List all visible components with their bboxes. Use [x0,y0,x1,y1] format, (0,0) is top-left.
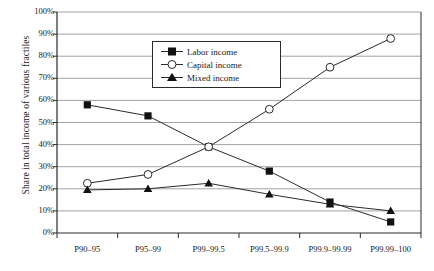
legend-marker-filled-triangle-icon [159,71,185,84]
legend-marker-open-circle-icon [159,58,185,71]
legend-item-labor-income: Labor income [159,45,280,58]
x-axis-tick-label: P99.9–99.99 [309,244,352,254]
legend-item-mixed-income: Mixed income [159,71,280,84]
x-axis-tick-label: P99–99.5 [192,244,224,254]
x-axis-tick-label: P99.99–100 [370,244,411,254]
x-axis-tick-label: P90–95 [74,244,100,254]
chart-legend: Labor income Capital income Mixed income [152,41,281,88]
chart-container: Share in total income of various fractil… [0,0,434,271]
legend-label-labor-income: Labor income [185,47,237,57]
legend-label-mixed-income: Mixed income [185,73,239,83]
legend-item-capital-income: Capital income [159,58,280,71]
legend-label-capital-income: Capital income [185,60,242,70]
legend-marker-filled-square-icon [159,45,185,58]
x-axis-tick-label: P99.5–99.9 [250,244,289,254]
x-axis-tick-label: P95–99 [135,244,161,254]
